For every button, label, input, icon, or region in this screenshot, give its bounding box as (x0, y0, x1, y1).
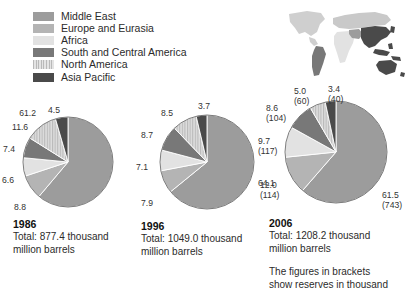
pie-value-label: 7.1 (136, 162, 148, 172)
chart-total-line2-1986: million barrels (13, 244, 140, 257)
legend-swatch-europe-and-eurasia (33, 24, 54, 33)
map-region-asia-pacific (361, 26, 391, 48)
chart-total-line2-2006: million barrels (269, 243, 412, 256)
map-region-australia (376, 60, 397, 75)
pie-reserve-label: (743) (382, 200, 402, 210)
legend-item-asia-pacific: Asia Pacific (33, 71, 187, 83)
world-map-graphic (287, 6, 409, 80)
pie-reserve-label: (114) (260, 190, 280, 200)
chart-title-2006: 2006 (269, 217, 412, 230)
legend-item-middle-east: Middle East (33, 10, 187, 22)
pie-value-label: 61.5 (382, 190, 399, 200)
pie-value-label: 8.5 (161, 108, 173, 118)
legend-swatch-north-america (33, 60, 54, 69)
pie-value-label: 4.5 (48, 105, 60, 115)
pie-slices-2006 (285, 101, 387, 203)
pie-value-label: 6.6 (2, 175, 14, 185)
map-region-japan (390, 26, 395, 33)
pie-chart-1986-graphic: 61.28.86.67.411.64.5 (0, 106, 140, 214)
pie-value-label: 5.0 (294, 86, 306, 96)
world-map (287, 6, 409, 80)
legend-swatch-asia-pacific (33, 73, 54, 82)
legend-label: South and Central America (61, 47, 187, 58)
legend-item-europe-and-eurasia: Europe and Eurasia (33, 22, 187, 34)
pie-value-label: 8.8 (14, 202, 26, 212)
legend-item-africa: Africa (33, 34, 187, 46)
pie-value-label: 3.7 (198, 101, 210, 111)
legend-swatch-middle-east (33, 12, 54, 21)
legend-label: Africa (61, 35, 88, 46)
legend-swatch-south-and-central-america (33, 48, 54, 57)
chart-1986: 61.28.86.67.411.64.5 1986 Total: 877.4 t… (0, 106, 140, 256)
pie-value-label: 12.0 (260, 180, 277, 190)
legend-label: Europe and Eurasia (61, 23, 154, 34)
chart-title-1986: 1986 (13, 218, 140, 231)
pie-chart-2006-graphic: 61.5(743)12.0(114)9.7(117)8.6(104)5.0(60… (258, 84, 412, 215)
map-region-europe-eurasia (333, 12, 391, 29)
map-region-new-zealand (400, 72, 405, 77)
map-region-philippines (388, 43, 393, 49)
chart-total-line1-1986: Total: 877.4 thousand (13, 231, 140, 244)
legend-swatch-africa (33, 36, 54, 45)
map-region-south-america (312, 46, 326, 76)
legend-item-south-and-central-america: South and Central America (33, 47, 187, 59)
map-region-north-america (289, 11, 325, 36)
footnote-line1: The figures in brackets (269, 266, 412, 279)
pie-reserve-label: (40) (328, 94, 343, 104)
map-region-new-guinea (391, 56, 401, 61)
pie-reserve-label: (104) (266, 113, 286, 123)
chart-total-line1-2006: Total: 1208.2 thousand (269, 230, 412, 243)
pie-2006: 61.5(743)12.0(114)9.7(117)8.6(104)5.0(60… (258, 84, 412, 215)
pie-slices-1996 (160, 115, 254, 209)
legend-item-north-america: North America (33, 59, 187, 71)
pie-value-label: 7.9 (141, 198, 153, 208)
pie-value-label: 61.2 (19, 108, 36, 118)
pie-value-label: 7.4 (3, 144, 15, 154)
legend-label: Asia Pacific (61, 72, 115, 83)
legend: Middle East Europe and Eurasia Africa So… (33, 10, 187, 83)
footnote-line2: show reserves in thousand (269, 279, 412, 292)
pie-value-label: 9.7 (258, 136, 270, 146)
pie-slices-1986 (23, 117, 113, 207)
map-region-central-america (309, 37, 318, 46)
pie-value-label: 8.6 (266, 103, 278, 113)
pie-value-label: 8.7 (141, 130, 153, 140)
pie-value-label: 11.6 (12, 122, 28, 132)
pie-reserve-label: (117) (258, 146, 278, 156)
pie-1986: 61.28.86.67.411.64.5 (0, 106, 140, 214)
legend-label: North America (61, 59, 128, 70)
legend-label: Middle East (61, 11, 116, 22)
chart-2006: 61.5(743)12.0(114)9.7(117)8.6(104)5.0(60… (258, 84, 412, 291)
pie-value-label: 3.4 (328, 84, 340, 94)
map-region-southeast-asia (373, 49, 390, 56)
pie-reserve-label: (60) (294, 96, 309, 106)
